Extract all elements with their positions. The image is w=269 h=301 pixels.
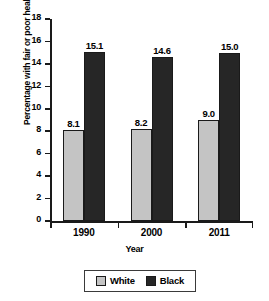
legend-swatch-black-icon [146, 276, 156, 286]
y-axis-tick-label: 16 [31, 35, 41, 45]
bar-value-label: 14.6 [153, 45, 170, 56]
x-axis-tick [252, 222, 254, 228]
x-axis-tick-label: 1990 [59, 227, 109, 238]
y-axis-tick: 14 [45, 63, 50, 65]
x-axis-line [50, 221, 253, 223]
bar-value-label: 15.0 [221, 41, 238, 52]
legend-label-black: Black [160, 276, 184, 286]
y-axis-tick: 6 [45, 153, 50, 155]
y-axis-tick-label: 8 [36, 124, 41, 134]
bar-value-label: 8.1 [67, 118, 79, 129]
bar-chart-figure: Percentage with fair or poor health 0246… [0, 0, 269, 301]
bar-value-label: 8.2 [135, 117, 147, 128]
bar-black-2000: 14.6 [152, 57, 173, 221]
y-axis-tick: 4 [45, 175, 50, 177]
y-axis-tick: 16 [45, 41, 50, 43]
y-axis-tick-label: 18 [31, 12, 41, 22]
y-axis-tick-label: 0 [36, 214, 41, 224]
y-axis-tick: 12 [45, 86, 50, 88]
y-axis-tick: 10 [45, 108, 50, 110]
legend-item-black: Black [146, 276, 184, 286]
y-axis-tick-label: 2 [36, 192, 41, 202]
bar-black-2011: 15.0 [219, 53, 240, 221]
y-axis-tick: 2 [45, 198, 50, 200]
y-axis-tick: 8 [45, 130, 50, 132]
x-axis-tick-label: 2011 [194, 227, 244, 238]
bar-white-2000: 8.2 [131, 129, 152, 221]
bar-value-label: 15.1 [86, 40, 103, 51]
y-axis-tick-label: 4 [36, 169, 41, 179]
x-axis-tick [185, 222, 187, 228]
bar-white-1990: 8.1 [63, 130, 84, 221]
legend-item-white: White [96, 276, 135, 286]
y-axis-tick-label: 10 [31, 102, 41, 112]
y-axis-tick: 18 [45, 18, 50, 20]
y-axis-tick-label: 14 [31, 57, 41, 67]
x-axis-tick [118, 222, 120, 228]
bar-value-label: 9.0 [203, 108, 215, 119]
plot-area: 0246810121416188.115.18.214.69.015.0 [50, 19, 253, 221]
y-axis-title: Percentage with fair or poor health [23, 0, 32, 143]
y-axis-tick-label: 12 [31, 80, 41, 90]
x-axis-tick-label: 2000 [127, 227, 177, 238]
legend-swatch-white-icon [96, 276, 106, 286]
bar-white-2011: 9.0 [198, 120, 219, 221]
x-axis-tick [50, 222, 52, 228]
bar-black-1990: 15.1 [84, 52, 105, 221]
chart-legend: White Black [84, 270, 196, 292]
legend-label-white: White [110, 276, 135, 286]
y-axis-tick-label: 6 [36, 147, 41, 157]
x-axis-title: Year [0, 244, 269, 254]
y-axis-line [50, 19, 52, 222]
